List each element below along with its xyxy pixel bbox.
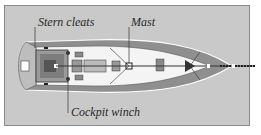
label-mast: Mast — [131, 15, 155, 30]
stern-cleat-port — [44, 47, 48, 49]
hatch-port — [75, 52, 83, 57]
label-stern-cleats: Stern cleats — [38, 15, 94, 30]
label-cockpit-winch: Cockpit winch — [71, 105, 140, 120]
hatch-starboard — [75, 75, 83, 80]
stern-cleat-starboard — [44, 83, 48, 85]
stern-ladder — [21, 61, 29, 71]
cockpit-winch-starboard — [66, 77, 70, 81]
forward-hatch — [156, 59, 164, 71]
cockpit-winch-port — [66, 51, 70, 55]
